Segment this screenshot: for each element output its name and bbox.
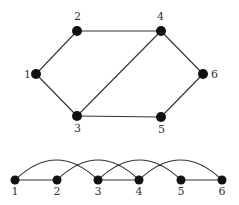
linear-node-4 xyxy=(135,176,144,185)
edge-5-6 xyxy=(161,74,203,117)
diagram-canvas: 123456 123456 xyxy=(0,0,239,205)
linear-node-1 xyxy=(11,176,20,185)
linear-node-label-5: 5 xyxy=(178,185,185,198)
node-label-5: 5 xyxy=(158,123,165,136)
edge-1-3 xyxy=(36,74,77,116)
linear-node-label-1: 1 xyxy=(12,185,19,198)
top-graph-edges xyxy=(36,31,203,117)
top-graph-nodes: 123456 xyxy=(24,10,218,136)
linear-node-6 xyxy=(218,176,227,185)
node-1 xyxy=(31,69,41,79)
linear-node-label-6: 6 xyxy=(219,185,226,198)
linear-node-2 xyxy=(53,176,62,185)
linear-node-label-2: 2 xyxy=(54,185,61,198)
linear-node-label-4: 4 xyxy=(136,185,143,198)
node-label-4: 4 xyxy=(157,10,164,23)
edge-4-6 xyxy=(161,31,203,74)
node-5 xyxy=(156,112,166,122)
linear-node-5 xyxy=(177,176,186,185)
edge-1-2 xyxy=(36,31,77,74)
node-label-3: 3 xyxy=(74,122,81,135)
linear-node-3 xyxy=(94,176,103,185)
linear-layout-edges xyxy=(15,160,222,180)
node-2 xyxy=(72,26,82,36)
linear-node-label-3: 3 xyxy=(95,185,102,198)
node-6 xyxy=(198,69,208,79)
node-label-2: 2 xyxy=(74,10,81,23)
edge-3-5 xyxy=(77,116,161,117)
node-label-1: 1 xyxy=(24,68,31,81)
graph-diagram: 123456 123456 xyxy=(0,0,239,205)
node-3 xyxy=(72,111,82,121)
node-label-6: 6 xyxy=(211,68,218,81)
node-4 xyxy=(156,26,166,36)
linear-layout-nodes: 123456 xyxy=(11,176,227,199)
edge-3-4 xyxy=(77,31,161,116)
